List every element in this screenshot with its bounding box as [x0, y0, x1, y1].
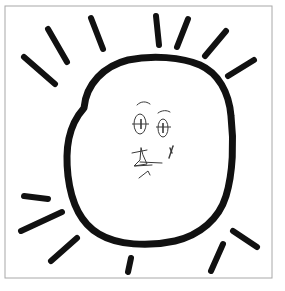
- ray-bottom-left-upper: [24, 196, 48, 199]
- ray-top-center: [156, 16, 159, 45]
- drawing-canvas: Hand-drawn sun with a face: [0, 0, 285, 291]
- ray-bottom-center: [128, 258, 131, 272]
- sun-drawing: [0, 0, 285, 291]
